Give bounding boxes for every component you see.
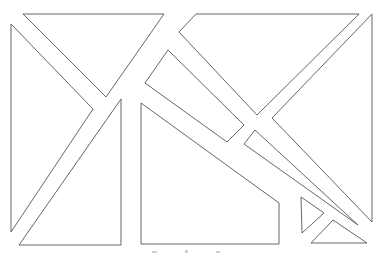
caption-mark xyxy=(216,251,220,253)
dissection-diagram xyxy=(0,0,382,257)
diagram-pieces xyxy=(11,14,372,245)
caption-mark xyxy=(152,251,157,253)
piece-bottom-right-triangle xyxy=(311,220,367,243)
caption-mark xyxy=(185,250,188,253)
faint-caption xyxy=(152,250,220,253)
piece-small-triangle xyxy=(301,197,324,233)
